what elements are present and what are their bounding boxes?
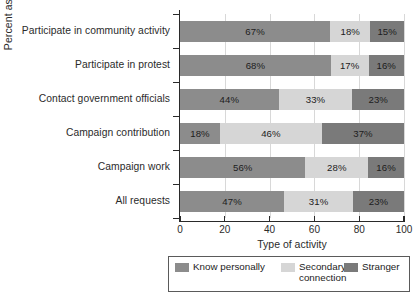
bar-segment: 16%	[368, 157, 404, 178]
x-axis-tick	[269, 216, 270, 222]
x-axis-tick-label: 40	[264, 224, 275, 235]
category-label-list: Participate in community activityPartici…	[18, 14, 174, 218]
bar-segment-value: 23%	[368, 94, 388, 105]
bar-segment-value: 33%	[306, 94, 326, 105]
chart-figure: Percent asked Participate in community a…	[0, 0, 414, 301]
bar-segment: 15%	[370, 21, 404, 42]
y-axis-category-label: Campaign work	[98, 160, 170, 174]
y-axis-category-label: Campaign contribution	[66, 126, 170, 140]
bar-segment-value: 37%	[353, 128, 373, 139]
gridline	[314, 14, 315, 218]
legend-item: Stranger	[344, 261, 400, 272]
bar-stack: 47%31%23%	[180, 191, 404, 212]
bar-segment: 23%	[352, 89, 404, 110]
bar-segment: 67%	[180, 21, 330, 42]
y-axis-tick	[173, 82, 179, 83]
bar-segment: 37%	[322, 123, 404, 144]
bar-segment-value: 16%	[377, 60, 397, 71]
bar-segment-value: 56%	[233, 162, 253, 173]
bar-segment-value: 31%	[309, 196, 329, 207]
bar-segment: 47%	[180, 191, 284, 212]
legend-swatch	[175, 263, 189, 272]
bar-segment: 46%	[220, 123, 322, 144]
y-axis-tick	[173, 184, 179, 185]
legend-item: Know personally	[175, 261, 265, 272]
bar-segment: 23%	[353, 191, 404, 212]
x-axis-tick	[224, 216, 225, 222]
bar-stack: 56%28%16%	[180, 157, 404, 178]
y-axis-tick	[173, 48, 179, 49]
bar-segment: 18%	[330, 21, 370, 42]
bar-segment: 18%	[180, 123, 220, 144]
y-axis-tick	[173, 150, 179, 151]
bar-segment-value: 46%	[261, 128, 281, 139]
bar-segment-value: 15%	[377, 26, 397, 37]
bar-segment-value: 68%	[246, 60, 266, 71]
bar-segment: 44%	[180, 89, 279, 110]
bar-segment: 31%	[284, 191, 353, 212]
bar-segment-value: 18%	[340, 26, 360, 37]
x-axis-tick	[179, 216, 180, 222]
y-axis-category-label: Participate in protest	[75, 58, 170, 72]
bar-segment: 56%	[180, 157, 305, 178]
x-axis-tick-label: 0	[177, 224, 183, 235]
y-axis-tick	[173, 116, 179, 117]
gridline	[404, 14, 405, 218]
legend-swatch	[344, 263, 358, 272]
chart-legend: Know personallySecondary connectionStran…	[168, 256, 410, 292]
bar-segment-value: 17%	[340, 60, 360, 71]
bar-stack: 18%46%37%	[180, 123, 404, 144]
x-axis-tick	[403, 216, 404, 222]
bar-segment-value: 28%	[327, 162, 347, 173]
legend-label: Secondary connection	[299, 261, 346, 283]
bar-segment: 68%	[180, 55, 331, 76]
x-axis-tick-label: 20	[219, 224, 230, 235]
y-axis-tick	[173, 218, 179, 219]
x-axis-tick-label: 100	[396, 224, 413, 235]
x-axis-tick-label: 60	[309, 224, 320, 235]
y-axis-title: Percent asked	[2, 0, 16, 76]
legend-label: Know personally	[193, 261, 265, 272]
bar-segment-value: 47%	[222, 196, 242, 207]
bar-segment-value: 18%	[190, 128, 210, 139]
bar-segment-value: 16%	[376, 162, 396, 173]
legend-label: Stranger	[362, 261, 400, 272]
bar-segment: 17%	[331, 55, 369, 76]
x-axis-line	[179, 221, 405, 222]
x-axis-tick-label: 80	[354, 224, 365, 235]
y-axis-category-label: All requests	[116, 194, 170, 208]
bar-stack: 44%33%23%	[180, 89, 404, 110]
legend-swatch	[281, 263, 295, 272]
gridline	[225, 14, 226, 218]
bar-segment-value: 67%	[245, 26, 265, 37]
gridline	[270, 14, 271, 218]
x-axis-tick	[359, 216, 360, 222]
bar-stack: 68%17%16%	[180, 55, 404, 76]
legend-item: Secondary connection	[281, 261, 346, 283]
x-axis-tick	[314, 216, 315, 222]
bar-segment: 28%	[305, 157, 368, 178]
bar-segment-value: 44%	[220, 94, 240, 105]
bar-segment-value: 23%	[369, 196, 389, 207]
x-axis-title: Type of activity	[180, 238, 404, 250]
y-axis-tick	[173, 14, 179, 15]
bar-segment: 16%	[369, 55, 404, 76]
bar-segment: 33%	[279, 89, 353, 110]
y-axis-category-label: Participate in community activity	[22, 24, 170, 38]
gridline	[359, 14, 360, 218]
plot-area: 67%18%15%68%17%16%44%33%23%18%46%37%56%2…	[180, 14, 404, 218]
y-axis-category-label: Contact government officials	[39, 92, 170, 106]
bar-stack: 67%18%15%	[180, 21, 404, 42]
